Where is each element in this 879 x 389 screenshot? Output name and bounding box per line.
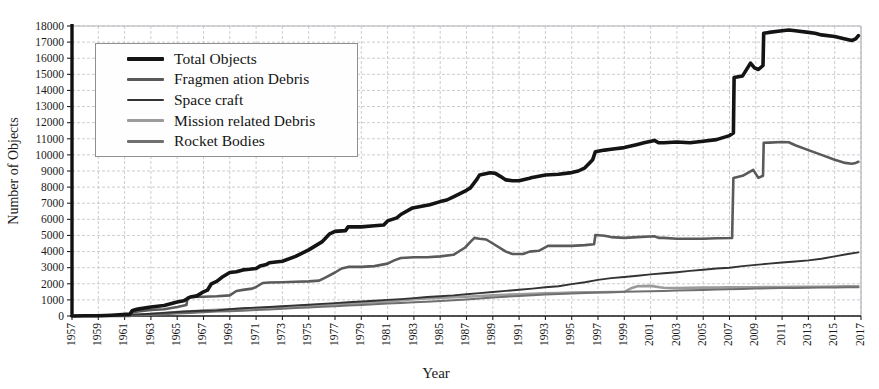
y-tick-label: 15000 — [35, 68, 64, 80]
x-tick-label: 2003 — [670, 323, 682, 346]
x-tick-label: 1959 — [91, 323, 103, 346]
x-tick-label: 1979 — [354, 323, 366, 346]
legend-line-swatch — [127, 140, 164, 143]
legend-label: Rocket Bodies — [174, 132, 265, 150]
y-tick-label: 13000 — [35, 100, 64, 112]
x-tick-label: 1975 — [301, 323, 313, 346]
y-tick-label: 11000 — [36, 133, 65, 145]
legend-item-mission-related-debris: Mission related Debris — [127, 112, 353, 130]
x-tick-label: 2009 — [748, 323, 760, 346]
y-tick-label: 4000 — [41, 245, 64, 257]
y-tick-label: 9000 — [41, 165, 64, 177]
x-tick-label: 2013 — [801, 323, 813, 346]
y-tick-label: 3000 — [41, 261, 64, 273]
legend-item-total-objects: Total Objects — [127, 50, 353, 68]
x-tick-label: 1963 — [144, 323, 156, 346]
x-tick-label: 1981 — [380, 323, 392, 346]
y-tick-label: 17000 — [35, 36, 64, 48]
y-tick-label: 7000 — [41, 197, 64, 209]
legend-line-swatch — [127, 99, 164, 102]
x-tick-label: 2011 — [775, 323, 787, 346]
x-tick-label: 2001 — [643, 323, 655, 346]
x-tick-label: 1965 — [170, 323, 182, 346]
y-tick-label: 10000 — [35, 149, 64, 161]
x-tick-label: 1983 — [407, 323, 419, 346]
x-tick-label: 1961 — [117, 323, 129, 346]
x-tick-label: 1993 — [538, 323, 550, 346]
y-axis-title: Number of Objects — [6, 117, 22, 224]
x-axis-title: Year — [422, 365, 450, 382]
x-tick-label: 1985 — [433, 323, 445, 346]
legend-label: Fragmen ation Debris — [174, 70, 309, 88]
legend-label: Space craft — [174, 91, 243, 109]
x-tick-label: 1999 — [617, 323, 629, 346]
legend-item-space-craft: Space craft — [127, 91, 353, 109]
x-tick-label: 2005 — [696, 323, 708, 346]
x-tick-label: 2015 — [827, 323, 839, 346]
x-tick-label: 1969 — [222, 323, 234, 346]
x-tick-label: 1967 — [196, 323, 208, 346]
y-tick-label: 14000 — [35, 84, 64, 96]
space-objects-chart-figure: 0100020003000400050006000700080009000100… — [0, 0, 879, 389]
x-tick-label: 1973 — [275, 323, 287, 346]
legend-line-swatch — [127, 57, 164, 61]
legend: Total ObjectsFragmen ation DebrisSpace c… — [95, 43, 358, 157]
y-tick-label: 12000 — [35, 116, 64, 128]
y-tick-label: 8000 — [41, 181, 64, 193]
x-tick-label: 1987 — [459, 323, 471, 346]
y-tick-label: 5000 — [41, 229, 64, 241]
x-tick-label: 1957 — [65, 323, 77, 346]
y-tick-label: 18000 — [35, 20, 64, 32]
x-tick-label: 1971 — [249, 323, 261, 346]
y-tick-label: 2000 — [41, 278, 64, 290]
y-tick-label: 1000 — [41, 294, 64, 306]
legend-item-rocket-bodies: Rocket Bodies — [127, 132, 353, 150]
legend-line-swatch — [127, 119, 164, 122]
legend-label: Mission related Debris — [174, 112, 315, 130]
x-tick-label: 1977 — [328, 323, 340, 346]
y-tick-label: 16000 — [35, 52, 64, 64]
x-tick-label: 1989 — [485, 323, 497, 346]
legend-label: Total Objects — [174, 50, 257, 68]
legend-item-fragmen-ation-debris: Fragmen ation Debris — [127, 70, 353, 88]
x-tick-label: 2007 — [722, 323, 734, 346]
x-tick-label: 2017 — [854, 323, 866, 346]
x-tick-label: 1991 — [512, 323, 524, 346]
y-tick-label: 0 — [58, 310, 64, 322]
legend-line-swatch — [127, 78, 164, 81]
x-tick-label: 1995 — [564, 323, 576, 346]
y-tick-label: 6000 — [41, 213, 64, 225]
x-tick-label: 1997 — [591, 323, 603, 346]
